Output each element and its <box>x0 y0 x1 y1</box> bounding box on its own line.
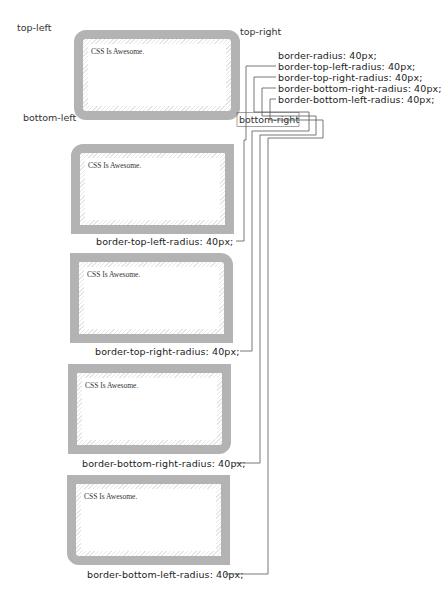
connector-lines <box>0 0 448 602</box>
